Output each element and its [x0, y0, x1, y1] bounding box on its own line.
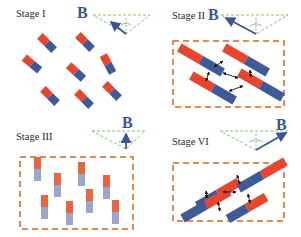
stage3-magnets — [34, 157, 119, 225]
stage2-field-indicator — [221, 15, 288, 34]
stage4-title: Stage VI — [172, 136, 209, 147]
stage2-field-label: B — [208, 6, 219, 24]
stage3-title: Stage III — [16, 131, 52, 142]
stage3-field-indicator — [92, 131, 145, 149]
stage1-field-label: B — [77, 4, 88, 22]
stage4-field-label: B — [276, 116, 287, 134]
stage2-chains — [177, 44, 285, 105]
stage1-magnets — [22, 32, 122, 109]
stage1-field-indicator — [93, 15, 150, 34]
stage4-field-arrow-icon — [256, 133, 286, 150]
stage2-field-arrow-icon — [226, 18, 256, 34]
stage2-title: Stage II — [172, 10, 205, 21]
stage4-chains — [180, 158, 287, 223]
stage3-field-label: B — [122, 114, 133, 132]
stage1-title: Stage I — [16, 8, 45, 19]
diagram-canvas — [0, 0, 301, 237]
